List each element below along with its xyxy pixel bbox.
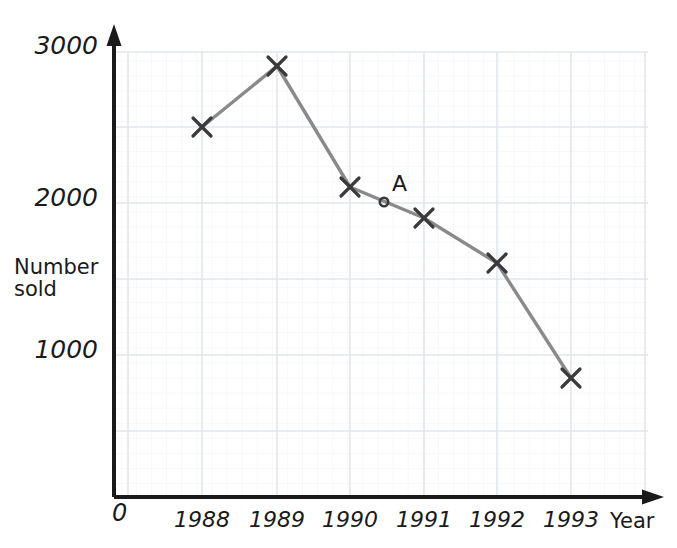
x-axis-arrowhead	[642, 490, 664, 505]
origin-label-zero: 0	[112, 500, 127, 527]
y-tick-label-1000: 1000	[14, 336, 98, 364]
y-axis-arrowhead	[107, 24, 122, 46]
annotation-label-a: A	[392, 172, 407, 197]
line-chart-figure: 3000 2000 1000 0 1988 1989 1990 1991 199…	[0, 0, 677, 548]
x-axis-title: Year	[610, 510, 654, 534]
x-tick-label-1993: 1993	[521, 508, 621, 533]
y-axis-title-line2: sold	[14, 278, 57, 302]
y-tick-label-2000: 2000	[14, 184, 98, 212]
chart-canvas	[0, 0, 677, 548]
y-axis-title-line1: Number	[14, 256, 98, 280]
y-tick-label-3000: 3000	[14, 32, 98, 60]
